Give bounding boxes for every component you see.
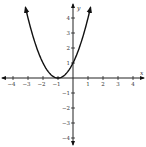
y-tick-label: 4 <box>67 15 71 21</box>
x-tick-label: 4 <box>131 81 135 87</box>
x-tick-label: 3 <box>116 81 120 87</box>
parabola-curve <box>25 7 90 78</box>
y-tick-label: 2 <box>67 45 71 51</box>
y-tick-label: −3 <box>62 120 71 126</box>
x-tick-label: 1 <box>86 81 90 87</box>
y-axis-label: y <box>76 4 81 12</box>
x-axis-label: x <box>140 69 144 76</box>
function-graph: −4−3−2−11234−4−3−2−11234 x y <box>0 0 146 147</box>
y-tick-label: −1 <box>62 90 70 96</box>
axes <box>2 4 144 145</box>
y-tick-label: 1 <box>67 60 71 66</box>
x-tick-label: −4 <box>7 81 16 87</box>
x-tick-label: −3 <box>22 81 31 87</box>
y-tick-label: −2 <box>62 105 70 111</box>
x-tick-label: 2 <box>101 81 105 87</box>
y-tick-label: −4 <box>62 135 71 141</box>
x-tick-label: −1 <box>52 81 60 87</box>
x-tick-label: −2 <box>37 81 45 87</box>
y-tick-label: 3 <box>67 30 71 36</box>
